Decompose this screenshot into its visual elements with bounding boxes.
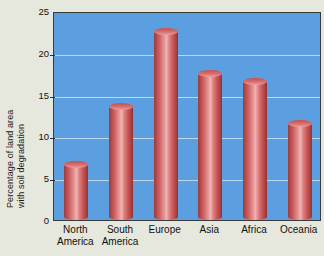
bar-cap [109, 103, 133, 110]
bar [64, 161, 88, 220]
y-axis-tickmark [50, 180, 55, 181]
bar [243, 78, 267, 220]
x-axis-tick-label: SouthAmerica [98, 224, 143, 248]
x-axis-tick-label-line-1: South [107, 224, 133, 235]
y-axis-tick-label: 25 [34, 7, 49, 17]
x-axis-tick-labels: NorthAmericaSouthAmericaEuropeAsiaAfrica… [53, 224, 321, 256]
y-axis-tick-labels: 0510152025 [34, 0, 49, 232]
bar [198, 70, 222, 220]
y-axis-tick-label: 20 [34, 49, 49, 59]
bar [109, 103, 133, 220]
x-axis-tick-label: Africa [232, 224, 277, 236]
bar-cap [64, 161, 88, 168]
x-axis-tick-label-line-1: Oceania [280, 224, 317, 235]
bar-cap [198, 70, 222, 77]
y-axis-tick-label: 15 [34, 91, 49, 101]
x-axis-tick-label: Europe [142, 224, 187, 236]
y-axis-tick-label: 5 [34, 174, 49, 184]
y-axis-title: Percentage of land area with soil degrad… [4, 0, 38, 222]
bar [288, 120, 312, 220]
x-axis-tick-label-line-1: Africa [241, 224, 267, 235]
x-axis-tick-label: NorthAmerica [53, 224, 98, 248]
y-axis-tickmark [50, 138, 55, 139]
y-axis-title-line-2: with soil degradation [16, 124, 26, 208]
y-axis-title-line-1: Percentage of land area [5, 110, 15, 208]
x-axis-tick-label-line-2: America [98, 236, 143, 248]
bar-chart-figure: Percentage of land area with soil degrad… [0, 0, 324, 256]
y-axis-tickmark [50, 55, 55, 56]
x-axis-tick-label: Oceania [276, 224, 321, 236]
bar-series [54, 13, 320, 220]
bar-cap [154, 28, 178, 35]
y-axis-tick-label: 10 [34, 132, 49, 142]
bar [154, 28, 178, 220]
x-axis-tick-label-line-2: America [53, 236, 98, 248]
bar-cap [288, 120, 312, 127]
y-axis-tick-label: 0 [34, 216, 49, 226]
x-axis-tick-label-line-1: Europe [149, 224, 181, 235]
bar-cap [243, 78, 267, 85]
x-axis-tick-label-line-1: Asia [200, 224, 219, 235]
y-axis-tickmark [50, 97, 55, 98]
plot-area [53, 12, 321, 221]
x-axis-tick-label-line-1: North [63, 224, 87, 235]
x-axis-tick-label: Asia [187, 224, 232, 236]
